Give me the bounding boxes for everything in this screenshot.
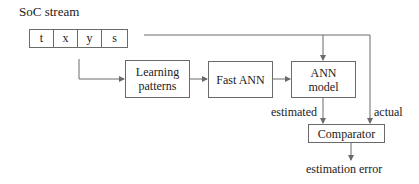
- estimation-error-label: estimation error: [306, 163, 382, 176]
- fast-ann-label: Fast ANN: [216, 73, 264, 87]
- ann-model-label-1: ANN: [311, 66, 337, 80]
- comparator-block: Comparator: [308, 124, 385, 143]
- stream-field-y: y: [77, 29, 102, 48]
- stream-field-s: s: [101, 29, 128, 48]
- stream-to-learning-arrow: [79, 59, 124, 79]
- learning-label-2: patterns: [139, 79, 177, 93]
- learning-patterns-block: Learning patterns: [125, 60, 190, 98]
- stream-field-x: x: [53, 29, 78, 48]
- learning-label-1: Learning: [136, 65, 179, 79]
- fast-ann-block: Fast ANN: [208, 61, 273, 98]
- stream-field-t: t: [29, 29, 54, 48]
- comparator-label: Comparator: [318, 127, 375, 141]
- ann-model-block: ANN model: [291, 61, 356, 98]
- actual-label: actual: [374, 106, 403, 119]
- estimated-label: estimated: [271, 106, 317, 119]
- ann-model-label-2: model: [309, 80, 339, 94]
- stream-title: SoC stream: [19, 5, 79, 18]
